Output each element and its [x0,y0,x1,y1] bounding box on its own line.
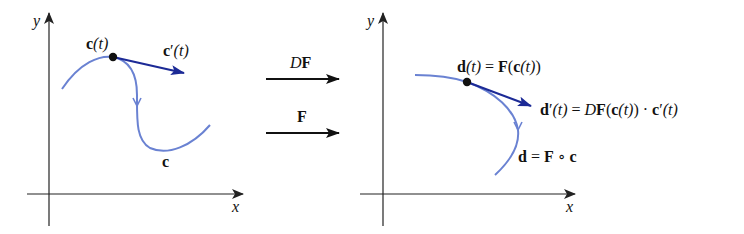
point-d-t [463,78,471,86]
velocity-arrow-c-prime [113,57,184,73]
left-axes: y x [27,12,243,226]
mapping-arrows: DF F [266,54,339,133]
label-curve-c: c [162,153,169,170]
label-F: F [297,108,307,125]
label-c-prime-t: c′(t) [163,42,189,60]
right-x-axis-label: x [565,198,573,215]
right-panel: y x d(t) = F(c(t)) d′(t) = DF(c(t)) · c′… [360,12,678,226]
left-panel: y x c(t) c′(t) c [27,12,243,226]
right-y-axis-label: y [365,12,375,30]
label-d-equals-F-compose-c: d = F ∘ c [518,148,577,165]
label-d-t-equals-F-c-t: d(t) = F(c(t)) [457,58,541,76]
curve-d [415,75,518,175]
velocity-arrow-d-prime [467,82,531,106]
label-c-t: c(t) [86,35,108,53]
point-c-t [109,53,117,61]
label-DF: DF [289,54,312,71]
chain-rule-diagram: y x c(t) c′(t) c DF F y x [0,0,744,234]
label-d-prime-chain-rule: d′(t) = DF(c(t)) · c′(t) [540,101,678,119]
left-y-axis-label: y [31,12,41,30]
left-x-axis-label: x [231,198,239,215]
right-axes: y x [360,12,575,226]
